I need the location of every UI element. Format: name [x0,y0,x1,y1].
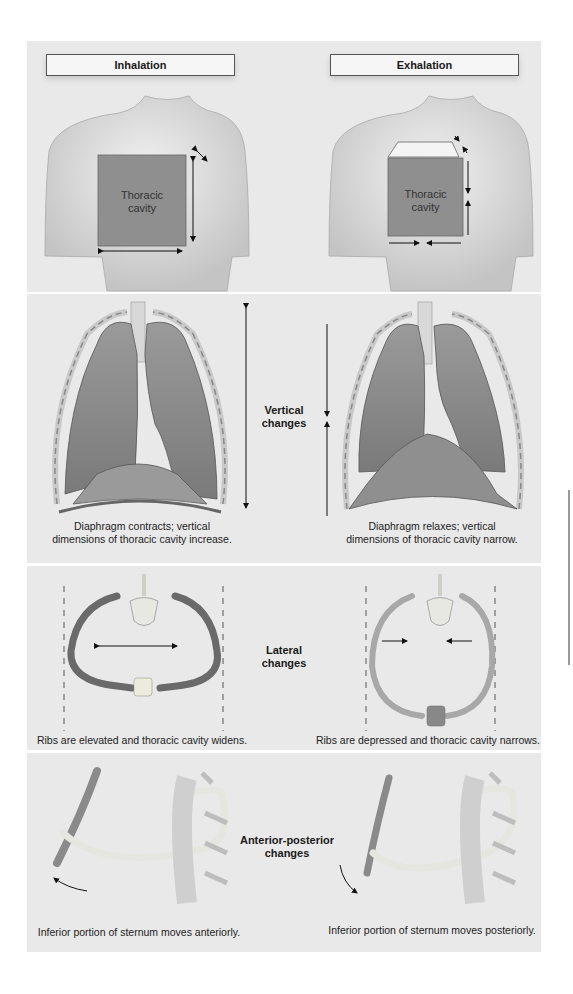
inhalation-cavity-label: Thoracic cavity [98,189,186,215]
torso-panel: Inhalation Exhalation [27,41,541,292]
inhalation-vertical-caption-line1: Diaphragm contracts; vertical [27,520,257,533]
torso-illustrations [27,41,541,292]
anterior-posterior-label-line2: changes [237,847,337,860]
inhalation-cavity-label-line2: cavity [98,202,186,215]
sternum-posterior [367,773,515,903]
sternum-anterior [57,771,227,903]
inhalation-vertical-caption: Diaphragm contracts; vertical dimensions… [27,520,257,545]
vertical-label-line2: changes [240,417,328,430]
exhalation-ap-caption: Inferior portion of sternum moves poster… [317,924,547,937]
exhalation-vertical-caption-line2: dimensions of thoracic cavity narrow. [317,533,547,546]
page-edge-line [568,490,570,665]
vertical-label-line1: Vertical [240,404,328,417]
elevated-ribs [71,574,218,696]
exhalation-lateral-caption: Ribs are depressed and thoracic cavity n… [313,734,543,747]
lateral-changes-label: Lateral changes [240,644,328,670]
exhalation-lungs [345,302,521,509]
lateral-label-line2: changes [240,657,328,670]
anterior-posterior-label-line1: Anterior-posterior [237,834,337,847]
anterior-posterior-panel: Anterior-posterior changes Inferior port… [27,753,541,952]
exhalation-vertical-caption-line1: Diaphragm relaxes; vertical [317,520,547,533]
inhalation-vertical-caption-line2: dimensions of thoracic cavity increase. [27,533,257,546]
lateral-label-line1: Lateral [240,644,328,657]
inhalation-lungs [55,302,225,512]
inhalation-lateral-caption: Ribs are elevated and thoracic cavity wi… [27,734,257,747]
exhalation-cavity-label: Thoracic cavity [388,188,463,214]
depressed-ribs [372,574,492,726]
exhalation-cavity-label-line2: cavity [388,201,463,214]
exhalation-cavity-label-line1: Thoracic [388,188,463,201]
inhalation-ap-caption: Inferior portion of sternum moves anteri… [19,926,259,939]
anterior-posterior-changes-label: Anterior-posterior changes [237,834,337,860]
exhalation-vertical-caption: Diaphragm relaxes; vertical dimensions o… [317,520,547,545]
lateral-changes-panel: Lateral changes Ribs are elevated and th… [27,566,541,750]
inhalation-cavity-label-line1: Thoracic [98,189,186,202]
vertical-changes-label: Vertical changes [240,404,328,430]
vertical-changes-panel: Vertical changes Diaphragm contracts; ve… [27,294,541,563]
